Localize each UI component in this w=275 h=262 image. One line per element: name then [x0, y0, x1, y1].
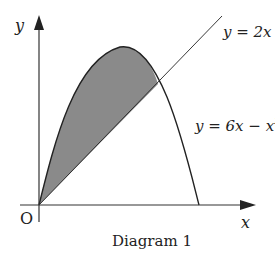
y-axis-label: y: [14, 16, 25, 35]
y-axis-arrow-icon: [34, 15, 44, 30]
origin-label: O: [20, 209, 33, 228]
shaded-region: [39, 47, 158, 205]
diagram-canvas: y x O y = 2x y = 6x − x2 Diagram 1: [0, 0, 275, 262]
parabola-label: y = 6x − x2: [194, 115, 275, 135]
diagram-caption: Diagram 1: [112, 232, 192, 250]
x-axis-arrow-icon: [240, 200, 256, 210]
line-label: y = 2x: [222, 23, 272, 41]
x-axis-label: x: [241, 213, 250, 232]
